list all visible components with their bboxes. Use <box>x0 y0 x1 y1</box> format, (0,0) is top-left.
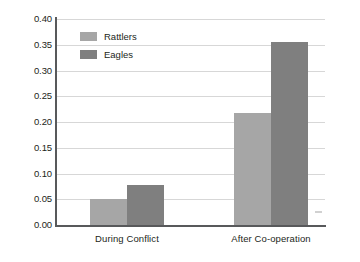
bar <box>271 42 308 225</box>
y-axis-tick-label: 0.20 <box>24 117 52 127</box>
gridline <box>57 225 325 226</box>
legend-item: Rattlers <box>80 29 137 44</box>
y-axis-tick-label: 0.00 <box>24 220 52 230</box>
legend-swatch <box>80 50 97 59</box>
y-axis-tick-label: 0.40 <box>24 14 52 24</box>
bar <box>90 199 127 225</box>
chart-legend: RattlersEagles <box>80 29 137 65</box>
bar <box>127 185 164 225</box>
scan-artifact <box>315 211 322 213</box>
gridline <box>57 19 325 20</box>
legend-item: Eagles <box>80 47 137 62</box>
y-axis-tick-label: 0.10 <box>24 169 52 179</box>
x-axis-category-label: After Co-operation <box>191 233 351 245</box>
legend-label: Rattlers <box>104 31 137 42</box>
y-axis-tick-label: 0.05 <box>24 194 52 204</box>
x-axis-category-label: During Conflict <box>47 233 207 245</box>
legend-label: Eagles <box>104 49 133 60</box>
y-axis-tick-label: 0.15 <box>24 143 52 153</box>
legend-swatch <box>80 32 97 41</box>
y-axis-tick-label: 0.30 <box>24 66 52 76</box>
bar-chart: Per cent 0.000.050.100.150.200.250.300.3… <box>0 0 360 262</box>
y-axis-tick-label: 0.25 <box>24 91 52 101</box>
y-axis-tick-label: 0.35 <box>24 40 52 50</box>
bar <box>234 113 271 225</box>
y-axis-tick-labels: 0.000.050.100.150.200.250.300.350.40 <box>22 0 52 262</box>
